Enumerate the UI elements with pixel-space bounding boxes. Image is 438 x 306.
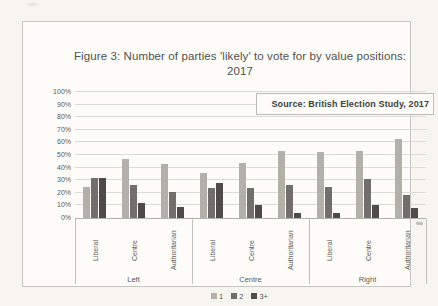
x-category-label: Liberal	[89, 223, 101, 277]
bar-right-centre-series-1	[356, 151, 363, 218]
y-tick-label: 40%	[37, 163, 71, 172]
legend-label: 2	[239, 292, 243, 301]
x-category-label: Centre	[128, 223, 140, 277]
x-group-label-centre: Centre	[192, 275, 309, 285]
gridline	[75, 116, 426, 117]
y-tick-label: 10%	[37, 200, 71, 209]
y-axis: 0%10%20%30%40%50%60%70%80%90%100%	[37, 92, 71, 218]
bar-left-liberal-series-3plus	[99, 178, 106, 218]
bar-right-centre-series-2	[364, 179, 371, 218]
bar-centre-liberal-series-3plus	[216, 183, 223, 218]
bar-left-authoritarian-series-3plus	[177, 207, 184, 218]
x-axis: LiberalCentreAuthoritarianLiberalCentreA…	[75, 218, 426, 286]
x-category-label: Centre	[245, 223, 257, 277]
source-note-text: Source: British Election Study, 2017	[272, 99, 429, 109]
y-tick-label: 90%	[37, 100, 71, 109]
bar-right-authoritarian-series-1	[395, 139, 402, 218]
bar-left-centre-series-1	[122, 159, 129, 218]
gridline	[75, 154, 426, 155]
y-tick-label: 100%	[37, 87, 71, 96]
source-note: Source: British Election Study, 2017	[256, 93, 434, 115]
bar-centre-centre-series-1	[239, 163, 246, 218]
x-category-label: Liberal	[206, 223, 218, 277]
bar-right-authoritarian-series-2	[403, 195, 410, 218]
bar-centre-centre-series-2	[247, 188, 254, 218]
x-group-label-right: Right	[309, 275, 426, 285]
bar-centre-liberal-series-1	[200, 173, 207, 218]
x-category-label: Liberal	[323, 223, 335, 277]
bar-centre-authoritarian-series-1	[278, 151, 285, 218]
chart-frame: Figure 3: Number of parties 'likely' to …	[22, 21, 411, 287]
bar-left-liberal-series-2	[91, 178, 98, 218]
legend-item-3plus: 3+	[251, 292, 268, 301]
y-tick-label: 70%	[37, 125, 71, 134]
legend-item-1: 1	[211, 292, 223, 301]
bar-right-authoritarian-series-3plus	[411, 208, 418, 218]
y-tick-label: 30%	[37, 175, 71, 184]
bar-left-liberal-series-1	[83, 187, 90, 219]
legend-item-2: 2	[231, 292, 243, 301]
bar-left-authoritarian-series-1	[161, 164, 168, 218]
scan-mark-artifact	[416, 222, 423, 226]
chart-title: Figure 3: Number of parties 'likely' to …	[60, 49, 420, 79]
legend: 123+	[23, 291, 438, 301]
x-category-label: Authoritarian	[401, 223, 413, 277]
legend-label: 1	[219, 292, 223, 301]
bar-centre-centre-series-3plus	[255, 205, 262, 218]
bar-right-liberal-series-2	[325, 187, 332, 219]
bar-centre-liberal-series-2	[208, 188, 215, 218]
y-tick-label: 60%	[37, 137, 71, 146]
axis-group-divider	[426, 219, 427, 284]
y-tick-label: 80%	[37, 112, 71, 121]
bar-right-centre-series-3plus	[372, 205, 379, 218]
gridline	[75, 91, 426, 92]
bar-right-liberal-series-1	[317, 152, 324, 218]
bar-left-authoritarian-series-2	[169, 192, 176, 218]
bar-centre-authoritarian-series-2	[286, 185, 293, 218]
legend-swatch-icon	[211, 293, 217, 299]
bar-left-centre-series-2	[130, 185, 137, 218]
gridline	[75, 141, 426, 142]
legend-swatch-icon	[231, 293, 237, 299]
gridline	[75, 129, 426, 130]
y-tick-label: 20%	[37, 188, 71, 197]
x-category-label: Centre	[362, 223, 374, 277]
x-group-label-left: Left	[75, 275, 192, 285]
legend-label: 3+	[259, 292, 268, 301]
x-category-label: Authoritarian	[284, 223, 296, 277]
y-tick-label: 0%	[37, 213, 71, 222]
scan-smudge-artifact	[26, 2, 40, 7]
legend-swatch-icon	[251, 293, 257, 299]
bar-left-centre-series-3plus	[138, 203, 145, 218]
y-tick-label: 50%	[37, 150, 71, 159]
x-category-label: Authoritarian	[167, 223, 179, 277]
